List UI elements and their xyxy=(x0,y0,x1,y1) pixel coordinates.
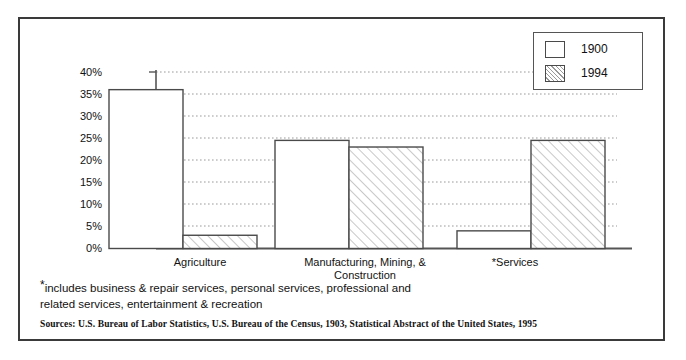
y-tick-label-30: 30% xyxy=(62,111,102,122)
hatched-square-icon xyxy=(545,65,565,82)
category-label-services: *Services xyxy=(445,256,585,269)
category-label-agriculture-line1: Agriculture xyxy=(174,256,227,268)
bar-chart: 40% 35% 30% 25% 20% 15% 10% 5% 0% Agricu… xyxy=(20,19,667,269)
bars-group xyxy=(109,90,605,249)
bar-1994-1 xyxy=(349,147,423,248)
y-tick-label-10: 10% xyxy=(62,199,102,210)
figure-frame: 40% 35% 30% 25% 20% 15% 10% 5% 0% Agricu… xyxy=(18,17,665,341)
chart-legend: 1900 1994 xyxy=(533,32,643,90)
bar-1900-0 xyxy=(109,90,183,249)
category-label-manufacturing-line1: Manufacturing, Mining, & xyxy=(304,256,426,268)
sources-text: Sources: U.S. Bureau of Labor Statistics… xyxy=(40,319,640,329)
bar-1900-2 xyxy=(457,231,531,249)
legend-label-1900: 1900 xyxy=(581,42,608,56)
legend-entry-1994: 1994 xyxy=(545,64,608,82)
footnote-line1: includes business & repair services, per… xyxy=(45,282,411,294)
category-label-services-line1: *Services xyxy=(492,256,538,268)
bar-1994-0 xyxy=(183,235,257,248)
footnote-block: *includes business & repair services, pe… xyxy=(40,277,640,329)
bar-1994-2 xyxy=(531,140,605,248)
y-tick-label-5: 5% xyxy=(62,221,102,232)
y-tick-label-35: 35% xyxy=(62,89,102,100)
legend-label-1994: 1994 xyxy=(581,66,608,80)
y-tick-label-25: 25% xyxy=(62,133,102,144)
bar-1900-1 xyxy=(275,140,349,248)
white-square-icon xyxy=(545,41,565,58)
footnote-text: *includes business & repair services, pe… xyxy=(40,277,470,312)
category-label-agriculture: Agriculture xyxy=(130,256,270,269)
y-tick-label-0: 0% xyxy=(62,243,102,254)
y-tick-label-15: 15% xyxy=(62,177,102,188)
y-tick-label-20: 20% xyxy=(62,155,102,166)
footnote-line2: related services, entertainment & recrea… xyxy=(40,298,262,310)
legend-entry-1900: 1900 xyxy=(545,40,608,58)
y-tick-label-40: 40% xyxy=(62,67,102,78)
